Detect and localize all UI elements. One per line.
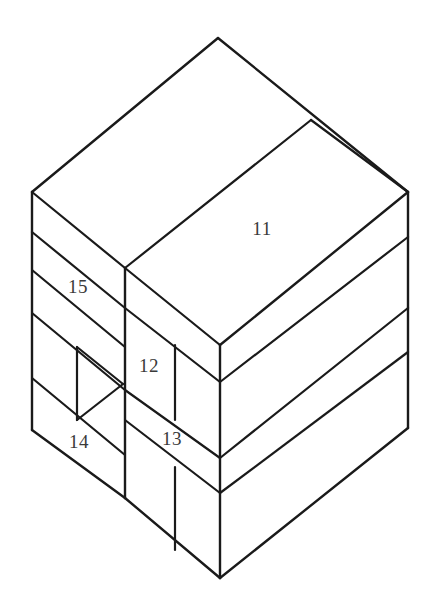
ref-numeral-14: 14	[69, 431, 89, 452]
ref-numeral-13: 13	[162, 428, 182, 449]
ref-numeral-15: 15	[68, 276, 88, 297]
isometric-block-drawing: 11 15 12 14 13	[0, 0, 435, 612]
figure-canvas: 11 15 12 14 13	[0, 0, 435, 612]
ref-numeral-11: 11	[252, 218, 271, 239]
ref-numeral-12: 12	[139, 355, 159, 376]
